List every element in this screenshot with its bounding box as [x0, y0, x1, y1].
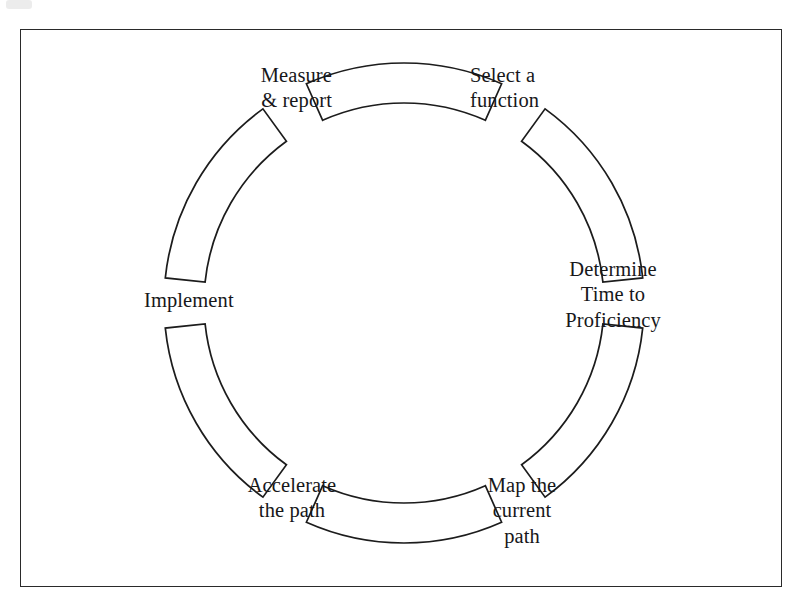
step-label-map-the-current-path: Map the current path — [466, 473, 578, 549]
segment-lower-left — [165, 324, 286, 497]
step-label-accelerate-the-path: Accelerate the path — [238, 473, 346, 524]
step-label-implement: Implement — [144, 288, 234, 313]
step-label-measure-report: Measure & report — [261, 63, 332, 114]
segment-lower-right — [522, 324, 643, 497]
step-label-select-a-function: Select a function — [470, 63, 539, 114]
cycle-diagram — [0, 0, 798, 608]
step-label-determine-time-to-proficiency: Determine Time to Proficiency — [548, 257, 678, 333]
segment-upper-left — [165, 109, 286, 282]
